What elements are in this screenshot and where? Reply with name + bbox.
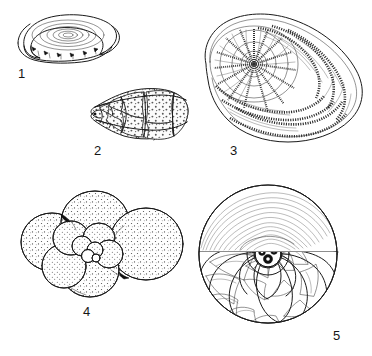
figure-4-drawing bbox=[16, 186, 190, 304]
figure-4-globigerinid-test bbox=[16, 186, 190, 304]
figure-2-conical-trochospiral-test bbox=[84, 84, 192, 144]
figure-4-proloculus bbox=[92, 254, 100, 262]
figure-1-milioline-coiled-test bbox=[8, 6, 126, 66]
figure-4-chamber-right-final bbox=[109, 208, 183, 280]
figure-1-drawing bbox=[8, 6, 126, 66]
figure-3-drawing bbox=[196, 8, 368, 150]
figure-1-label: 1 bbox=[18, 67, 25, 80]
figure-5-label: 5 bbox=[333, 329, 340, 342]
figure-2-label: 2 bbox=[94, 144, 101, 157]
figure-3-planispiral-beaded-test bbox=[196, 8, 368, 150]
figure-4-label: 4 bbox=[83, 305, 90, 318]
figure-5-sectioned-involute-test bbox=[188, 186, 350, 330]
figure-5-drawing bbox=[188, 186, 350, 330]
illustration-plate: 1 bbox=[0, 0, 372, 356]
figure-2-drawing bbox=[84, 84, 192, 144]
figure-3-label: 3 bbox=[230, 144, 237, 157]
